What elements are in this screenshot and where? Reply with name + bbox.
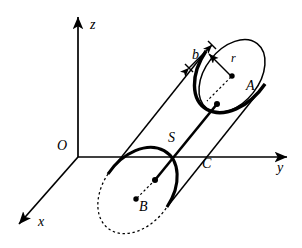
axis-label-x: x bbox=[38, 215, 44, 229]
axis-segment-label-S: S bbox=[168, 131, 175, 145]
point-label-B: B bbox=[139, 200, 148, 214]
axis-bottom-endpoint-dot bbox=[152, 177, 158, 183]
point-label-A: A bbox=[246, 79, 255, 93]
bottom-center-projection-dashed bbox=[137, 181, 154, 198]
point-A-dot bbox=[229, 73, 234, 78]
point-B-dot bbox=[133, 196, 138, 201]
radius-label-r: r bbox=[231, 52, 236, 64]
axis-top-endpoint-dot bbox=[214, 101, 220, 107]
axis-label-y: y bbox=[277, 161, 283, 175]
diagram-svg bbox=[0, 0, 302, 248]
bottom-face-hidden-arc bbox=[98, 174, 167, 234]
axis-label-z: z bbox=[90, 18, 95, 32]
body-label-C: C bbox=[202, 157, 211, 171]
axis-label-origin: O bbox=[57, 139, 67, 153]
axis-x bbox=[19, 157, 78, 224]
thickness-label-b: b bbox=[192, 48, 199, 62]
axis-x-line bbox=[19, 157, 78, 224]
figure-canvas: z y x O b r A B S C bbox=[0, 0, 302, 248]
